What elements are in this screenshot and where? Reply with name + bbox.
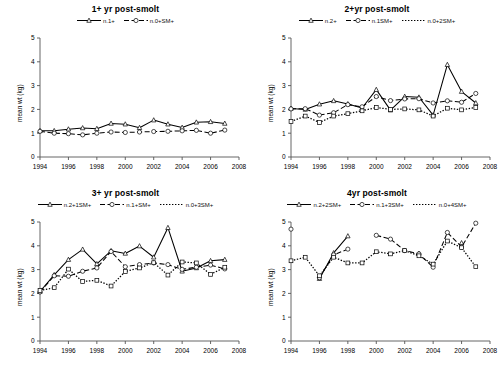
data-point-marker [166,129,170,133]
data-point-marker [166,273,170,277]
legend-item-n-0-2sm-[interactable]: n.0+2SM+ [402,17,456,24]
data-point-marker [445,230,449,234]
data-point-marker [374,94,378,98]
legend-label: n.0+2SM+ [428,18,456,24]
data-point-marker [474,221,478,225]
legend-label: n.1+SM+ [126,202,150,208]
legend-item-n-1-sm-[interactable]: n.1+SM+ [100,201,150,208]
legend-key-swatch [402,17,426,24]
data-point-marker [403,97,407,101]
data-point-marker [66,132,70,136]
data-point-marker [289,120,293,124]
data-point-marker [180,129,184,133]
data-point-marker [403,249,407,253]
legend-key-swatch [38,201,62,208]
legend-item-n-0-4sm-[interactable]: n.0+4SM+ [413,201,467,208]
y-axis-tick-label: 3 [31,82,35,89]
legend-item-n-0-3sm-[interactable]: n.0+3SM+ [160,201,214,208]
data-point-marker [303,107,307,111]
y-axis-label: mean wt (kg) [16,268,23,306]
data-point-marker [431,101,435,105]
y-axis-tick-label: 3 [31,266,35,273]
x-axis-tick-label: 2008 [232,163,247,170]
y-axis-tick-label: 2 [31,290,35,297]
y-axis-label: mean wt (kg) [267,268,274,306]
data-point-marker [152,118,156,122]
x-axis-tick-label: 2006 [454,163,469,170]
data-point-marker [110,202,114,206]
legend-key-swatch [160,201,184,208]
legend-key-swatch [350,201,374,208]
chart-legend: n.1+n.0+SM+ [0,17,251,24]
data-point-marker [346,261,350,265]
legend-key-swatch [100,201,124,208]
data-point-marker [81,133,85,137]
y-axis-tick-label: 1 [282,314,286,321]
y-axis-tick-label: 4 [282,58,286,65]
legend-item-n-1-3sm-[interactable]: n.1+3SM+ [350,201,404,208]
data-point-marker [445,99,449,103]
legend-item-n-2-[interactable]: n.2+ [299,17,337,24]
data-point-marker [445,62,449,66]
data-point-marker [95,266,99,270]
x-axis-tick-label: 2000 [369,347,384,354]
data-point-marker [194,265,198,269]
chart-panel-2: 2+yr post-smolt n.2+n.1SM+n.0+2SM+ 01234… [251,0,503,184]
chart-svg: 01234519941996199820002002200420062008 [251,28,502,183]
data-point-marker [445,239,449,243]
data-point-marker [166,225,170,229]
legend-key-swatch [346,17,370,24]
x-axis-tick-label: 1998 [90,347,105,354]
data-point-marker [459,100,463,104]
legend-key-swatch [77,17,101,24]
legend-item-n-1sm-[interactable]: n.1SM+ [346,17,393,24]
y-axis-tick-label: 1 [282,130,286,137]
data-point-marker [388,98,392,102]
x-axis-tick-label: 1998 [341,163,356,170]
legend-item-n-0-sm-[interactable]: n.0+SM+ [124,17,174,24]
x-axis-tick-label: 2004 [175,163,190,170]
data-point-marker [95,278,99,282]
data-point-marker [194,261,198,265]
data-point-marker [332,114,336,118]
data-point-marker [209,272,213,276]
data-point-marker [223,128,227,132]
x-axis-tick-label: 1998 [90,163,105,170]
data-point-marker [459,89,463,93]
legend-item-n-2-1sm-[interactable]: n.2+1SM+ [38,201,92,208]
data-point-marker [109,130,113,134]
chart-title: 3+ yr post-smolt [0,188,251,198]
data-point-marker [460,246,464,250]
data-point-marker [123,130,127,134]
x-axis-tick-label: 1994 [284,163,299,170]
legend-label: n.0+4SM+ [439,202,467,208]
x-axis-tick-label: 1996 [61,163,76,170]
data-point-marker [360,109,364,113]
chart-legend: n.2+1SM+n.1+SM+n.0+3SM+ [0,201,251,208]
x-axis-tick-label: 1994 [284,347,299,354]
data-point-marker [346,112,350,116]
y-axis-label: mean wt (kg) [267,84,274,122]
y-axis-tick-label: 1 [31,130,35,137]
data-point-marker [431,114,435,118]
data-point-marker [389,252,393,256]
x-axis-tick-label: 1996 [312,347,327,354]
x-axis-tick-label: 2004 [175,347,190,354]
x-axis-tick-label: 2008 [483,163,498,170]
legend-key-swatch [299,17,323,24]
legend-item-n-2-2sm-[interactable]: n.2+2SM+ [287,201,341,208]
data-point-marker [152,129,156,133]
data-point-marker [152,261,156,265]
y-axis-tick-label: 0 [31,337,35,344]
y-axis-tick-label: 0 [282,153,286,160]
data-point-marker [52,131,56,135]
x-axis-tick-label: 1998 [341,347,356,354]
y-axis-tick-label: 5 [31,218,35,225]
legend-item-n-1-[interactable]: n.1+ [77,17,115,24]
chart-svg: 01234519941996199820002002200420062008 [251,212,502,367]
data-point-marker [360,202,364,206]
data-point-marker [180,260,184,264]
data-point-marker [317,113,321,117]
data-point-marker [460,108,464,112]
series-line [291,241,476,276]
